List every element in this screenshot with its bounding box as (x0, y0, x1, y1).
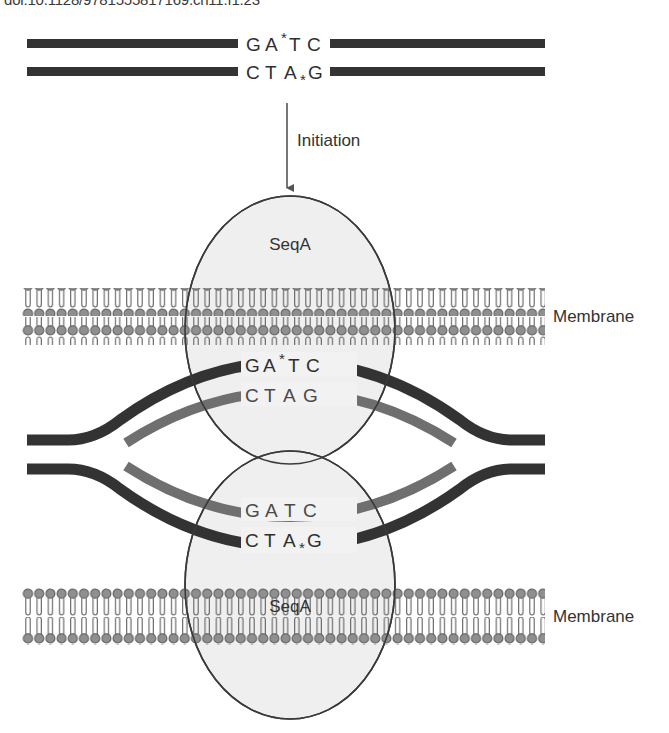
membrane-lower-label: Membrane (553, 607, 634, 626)
figure-root: doi:10.1128/9781555817169.ch11.f1.23 (0, 0, 669, 733)
lower-fork-new-sequence: G A T C (241, 497, 357, 521)
seqa-lower-label: SeqA (269, 597, 311, 616)
lower-fork-new-c: C (303, 500, 319, 521)
top-seq-g: G (246, 34, 263, 55)
upper-fork-new-t: T (264, 385, 278, 406)
upper-fork-new-g: G (303, 385, 320, 406)
lower-fork-parental-t: T (264, 530, 278, 551)
membrane-upper-label: Membrane (553, 307, 634, 326)
top-seq-methyl-mark: * (281, 29, 287, 46)
upper-fork-new-c: C (245, 385, 261, 406)
upper-fork-parental-sequence: G A * T C (241, 350, 357, 376)
top-strand-right-segment (330, 39, 545, 48)
top-seq-a: A (265, 34, 280, 55)
top-seq-c: C (307, 34, 323, 55)
lower-fork-parental-a: A (283, 530, 298, 551)
bottom-seq-c: C (246, 62, 262, 83)
initiation-step: Initiation (287, 103, 360, 188)
unreplicated-bottom-strand-sequence: C T A * G (246, 62, 325, 88)
lower-fork-new-a: A (265, 500, 280, 521)
lower-fork-new-g: G (245, 500, 262, 521)
upper-fork-new-a: A (283, 385, 298, 406)
bottom-seq-t: T (265, 62, 279, 83)
lower-fork-parental-c: C (245, 530, 261, 551)
bottom-seq-a: A (284, 62, 299, 83)
upper-fork-parental-a: A (263, 355, 278, 376)
upper-fork-new-sequence: C T A G (241, 382, 357, 406)
seqa-sequestration-diagram: G A * T C C T A * G Initiation (0, 0, 669, 733)
upper-fork-parental-c: C (306, 355, 322, 376)
membrane-upper-inner-leaflet (22, 317, 545, 345)
membrane-upper-outer-leaflet (22, 288, 545, 316)
lower-fork-parental-methyl-mark: * (299, 539, 305, 556)
top-strand-left-segment (27, 39, 238, 48)
lower-fork-new-t: T (284, 500, 298, 521)
unreplicated-top-strand-sequence: G A * T C (246, 29, 323, 55)
upper-fork-parental-g: G (245, 355, 262, 376)
bottom-strand-right-segment (330, 67, 545, 76)
upper-fork-parental-t: T (288, 355, 302, 376)
unreplicated-dna-duplex: G A * T C C T A * G (27, 29, 545, 88)
bottom-seq-g: G (308, 62, 325, 83)
membrane-lower-inner-leaflet (22, 617, 545, 645)
upper-fork-parental-methyl-mark: * (279, 350, 285, 367)
top-seq-t: T (289, 34, 303, 55)
bottom-strand-left-segment (27, 67, 238, 76)
lower-fork-parental-g: G (307, 530, 324, 551)
initiation-label: Initiation (297, 131, 360, 150)
seqa-protein-lower (185, 451, 395, 719)
bottom-seq-methyl-mark: * (300, 71, 306, 88)
lower-fork-parental-sequence: C T A * G (241, 527, 357, 556)
seqa-upper-label: SeqA (269, 235, 311, 254)
